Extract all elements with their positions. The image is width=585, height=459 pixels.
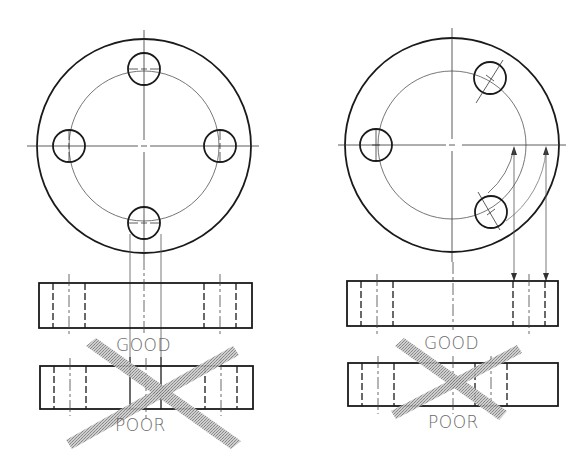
left-poor-label: POOR — [115, 415, 166, 435]
technical-drawing — [0, 0, 585, 459]
left-good-top-view — [39, 258, 252, 336]
right-poor-label: POOR — [428, 412, 479, 432]
right-good-label: GOOD — [424, 333, 479, 353]
left-good-label: GOOD — [116, 335, 171, 355]
right-good-top-view — [347, 262, 558, 335]
revolution-arc-inner — [488, 148, 514, 193]
right-front-view — [338, 28, 566, 281]
revolution-arc-outer — [506, 150, 546, 221]
